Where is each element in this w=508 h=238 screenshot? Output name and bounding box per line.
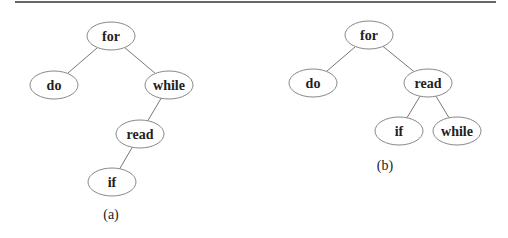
node-do: do [289, 69, 337, 97]
tree-a: fordowhilereadif(a) [30, 22, 193, 223]
node-label: while [441, 124, 473, 139]
edge-for-while [125, 48, 156, 74]
node-label: if [108, 175, 117, 190]
node-read: read [116, 120, 164, 148]
node-for: for [87, 22, 135, 50]
node-label: if [395, 124, 404, 139]
node-label: while [153, 78, 185, 93]
node-label: read [415, 76, 442, 91]
tree-caption: (a) [103, 207, 119, 223]
node-label: for [102, 29, 120, 44]
node-read: read [404, 69, 452, 97]
node-while: while [433, 117, 481, 145]
node-if: if [88, 168, 136, 196]
node-if: if [375, 117, 423, 145]
node-label: read [127, 127, 154, 142]
edge-read-if [407, 96, 420, 118]
binary-tree-diagram: fordowhilereadif(a) fordoreadifwhile(b) [0, 0, 508, 238]
node-while: while [145, 71, 193, 99]
edge-for-read [383, 46, 414, 71]
edge-while-read [148, 98, 161, 121]
edge-read-while [436, 96, 449, 118]
edge-for-do [67, 48, 97, 74]
tree-b: fordoreadifwhile(b) [289, 21, 481, 174]
node-label: for [360, 28, 378, 43]
edge-for-do [327, 47, 356, 72]
tree-caption: (b) [377, 158, 394, 174]
node-do: do [30, 71, 78, 99]
node-label: do [306, 76, 321, 91]
node-label: do [47, 78, 62, 93]
node-for: for [345, 21, 393, 49]
edge-read-if [120, 147, 133, 168]
